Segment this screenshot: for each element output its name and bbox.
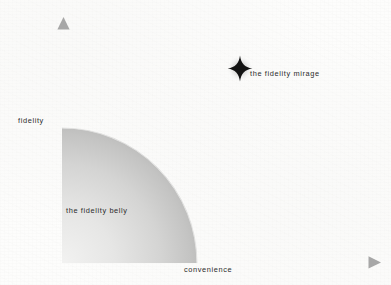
fidelity-belly-region bbox=[62, 128, 197, 263]
x-axis-label: convenience bbox=[184, 266, 232, 273]
y-axis-label: fidelity bbox=[18, 117, 44, 124]
plot-area bbox=[0, 0, 391, 285]
figure-canvas: fidelity convenience the fidelity belly … bbox=[0, 0, 391, 285]
fidelity-belly-label: the fidelity belly bbox=[66, 207, 128, 214]
arrow-right-icon bbox=[369, 256, 382, 268]
arrow-up-icon bbox=[57, 17, 69, 30]
fidelity-mirage-label: the fidelity mirage bbox=[250, 70, 320, 77]
